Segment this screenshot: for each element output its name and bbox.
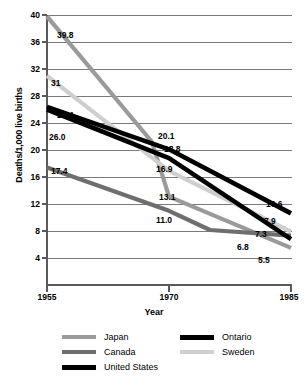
legend-item-sweden[interactable]: Sweden — [180, 345, 255, 359]
y-tick-label-8: 8 — [35, 226, 40, 236]
legend-swatch-sweden — [180, 350, 214, 354]
x-axis — [47, 285, 292, 292]
plot-area: 40 36 32 28 24 20 16 12 8 4 1955 1970 19… — [0, 0, 308, 300]
value-label-ontario-1970: 20.1 — [158, 131, 175, 141]
legend-label-japan: Japan — [104, 332, 129, 342]
y-tick-label-20: 20 — [31, 145, 41, 155]
y-tick-label-12: 12 — [31, 199, 41, 209]
value-label-sweden-1955: 31 — [51, 78, 61, 88]
chart-legend: Japan Canada United States Ontario Swede… — [0, 330, 308, 378]
legend-swatch-united-states — [62, 365, 96, 370]
value-label-japan-1955: 39.8 — [57, 30, 74, 40]
legend-item-ontario[interactable]: Ontario — [180, 330, 255, 344]
value-label-sweden-1985: 7.9 — [264, 216, 276, 226]
legend-item-japan[interactable]: Japan — [62, 330, 158, 344]
line-chart-figure: 40 36 32 28 24 20 16 12 8 4 1955 1970 19… — [0, 0, 308, 378]
legend-label-united-states: United States — [104, 362, 158, 372]
y-tick-label-36: 36 — [31, 37, 41, 47]
value-label-sweden-1970: 16.9 — [156, 164, 173, 174]
legend-swatch-canada — [62, 350, 96, 354]
y-axis — [42, 15, 47, 285]
legend-swatch-ontario — [180, 335, 214, 340]
value-label-japan-1970: 13.1 — [159, 192, 176, 202]
legend-column-right: Ontario Sweden — [180, 330, 255, 360]
y-tick-label-16: 16 — [31, 172, 41, 182]
x-axis-title: Year — [0, 307, 308, 317]
chart-svg: 40 36 32 28 24 20 16 12 8 4 1955 1970 19… — [0, 0, 308, 300]
legend-label-sweden: Sweden — [222, 347, 255, 357]
legend-swatch-japan — [62, 335, 96, 339]
y-tick-label-40: 40 — [31, 10, 41, 20]
value-label-ontario-1955: 26.4 — [57, 110, 74, 120]
legend-item-canada[interactable]: Canada — [62, 345, 158, 359]
y-tick-label-32: 32 — [31, 64, 41, 74]
x-tick-label-1955: 1955 — [38, 292, 57, 300]
value-label-unitedstates-1985: 6.8 — [237, 242, 249, 252]
value-label-unitedstates-1970: 18.8 — [164, 144, 181, 154]
value-label-unitedstates-1955: 26.0 — [49, 132, 66, 142]
value-label-ontario-1985: 10.6 — [266, 199, 283, 209]
legend-column-left: Japan Canada United States — [62, 330, 158, 375]
value-label-japan-1985: 5.5 — [258, 255, 270, 265]
y-axis-title: Deaths/1,000 live births — [14, 70, 24, 200]
y-tick-label-4: 4 — [35, 253, 40, 263]
y-tick-label-28: 28 — [31, 91, 41, 101]
value-label-canada-1955: 17.4 — [51, 166, 68, 176]
x-tick-label-1985: 1985 — [280, 292, 299, 300]
x-tick-label-1970: 1970 — [160, 292, 179, 300]
legend-item-united-states[interactable]: United States — [62, 360, 158, 374]
legend-label-canada: Canada — [104, 347, 136, 357]
y-tick-label-24: 24 — [31, 118, 41, 128]
value-label-canada-1970: 11.0 — [156, 215, 172, 225]
legend-label-ontario: Ontario — [222, 332, 252, 342]
value-label-canada-1985: 7.3 — [255, 229, 267, 239]
